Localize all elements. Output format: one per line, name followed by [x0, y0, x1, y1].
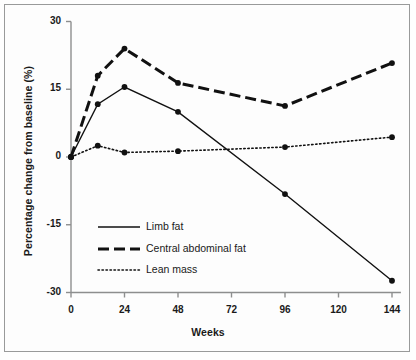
y-axis-tick-label: -30: [27, 286, 61, 297]
series-line-2: [71, 137, 392, 157]
data-point-marker: [122, 46, 128, 52]
x-axis-tick-label: 96: [265, 304, 305, 315]
y-axis-tick-label: 15: [27, 82, 61, 93]
data-point-marker: [175, 80, 181, 86]
data-point-marker: [282, 144, 288, 150]
x-axis-tick-label: 48: [158, 304, 198, 315]
y-axis-tick-label: 0: [27, 150, 61, 161]
data-point-marker: [95, 101, 101, 107]
x-axis-title: Weeks: [0, 326, 416, 338]
data-point-marker: [389, 60, 395, 66]
series-line-1: [71, 49, 392, 157]
chart-figure: Percentage change from baseline (%) Week…: [0, 0, 416, 360]
x-axis-tick-label: 72: [212, 304, 252, 315]
legend-item-label: Limb fat: [146, 220, 183, 232]
x-axis-tick-label: 144: [372, 304, 412, 315]
data-point-marker: [175, 148, 181, 154]
x-axis-tick-label: 24: [105, 304, 145, 315]
y-axis-title: Percentage change from baseline (%): [22, 36, 34, 286]
chart-axes: [66, 22, 401, 298]
y-axis-tick-label: 30: [27, 15, 61, 26]
data-point-marker: [389, 134, 395, 140]
x-axis-tick-label: 0: [51, 304, 91, 315]
data-point-marker: [95, 143, 101, 149]
data-point-marker: [95, 73, 101, 79]
data-point-marker: [389, 278, 395, 284]
y-axis-tick-label: -15: [27, 218, 61, 229]
legend-item-label: Lean mass: [146, 263, 197, 275]
legend-item-label: Central abdominal fat: [146, 242, 246, 254]
data-point-marker: [122, 84, 128, 90]
data-point-marker: [282, 191, 288, 197]
data-point-marker: [282, 103, 288, 109]
data-point-marker: [175, 109, 181, 115]
x-axis-tick-label: 120: [319, 304, 359, 315]
data-point-marker: [122, 150, 128, 156]
chart-legend-markers: [98, 227, 140, 270]
data-point-marker: [68, 154, 74, 160]
